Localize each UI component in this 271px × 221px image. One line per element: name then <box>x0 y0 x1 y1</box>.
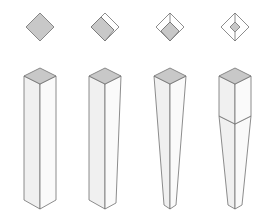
plan-view-straight <box>26 13 54 41</box>
plan-view-four-side-taper <box>221 13 249 41</box>
leg-two-side-taper <box>154 68 186 209</box>
plan-view-two-side-taper <box>156 13 184 41</box>
leg-straight <box>24 68 56 209</box>
leg-taper-diagram <box>0 0 271 221</box>
plan-view-one-side-taper <box>91 13 119 41</box>
leg-one-side-taper <box>89 68 121 209</box>
leg-four-side-taper <box>219 68 251 209</box>
